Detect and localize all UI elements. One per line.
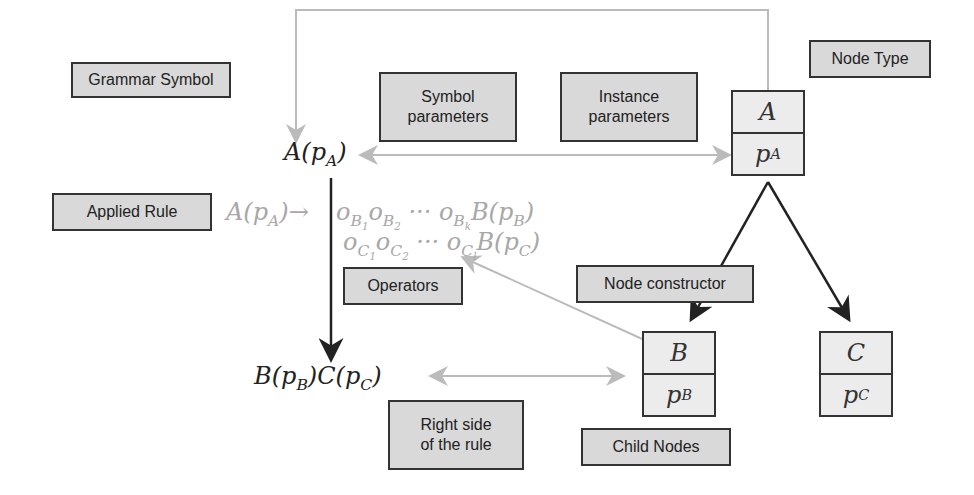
child-nodes-label: Child Nodes xyxy=(581,428,731,466)
node-C: C pC xyxy=(819,331,893,417)
operators-label: Operators xyxy=(343,267,463,305)
instance-parameters-label: Instanceparameters xyxy=(560,72,698,142)
right-side-label: Right sideof the rule xyxy=(388,400,524,470)
node-C-type: C xyxy=(821,333,891,373)
rule-lhs: A(pA)→ xyxy=(226,198,309,230)
symbol-parameters-label: Symbolparameters xyxy=(379,72,517,142)
node-constructor-label: Node constructor xyxy=(576,265,754,303)
rhs-expression: B(pB)C(pC) xyxy=(254,362,382,394)
node-A-type: A xyxy=(733,92,803,132)
applied-rule-label: Applied Rule xyxy=(52,193,212,231)
node-B-param: pB xyxy=(644,373,714,415)
node-B: B pB xyxy=(642,331,716,417)
grammar-symbol-label: Grammar Symbol xyxy=(71,62,231,98)
rule-rhs-line1: oB1oB2 ··· oBkB(pB) xyxy=(336,198,534,232)
grammar-symbol-expression: A(pA) xyxy=(284,138,347,170)
node-C-param: pC xyxy=(821,373,891,415)
node-A: A pA xyxy=(731,90,805,176)
rule-rhs-line2: oC1oC2 ··· oClB(pC) xyxy=(343,228,540,262)
node-B-type: B xyxy=(644,333,714,373)
node-type-label: Node Type xyxy=(809,40,931,78)
node-A-param: pA xyxy=(733,132,803,174)
constructor-arrow-C xyxy=(768,182,848,318)
